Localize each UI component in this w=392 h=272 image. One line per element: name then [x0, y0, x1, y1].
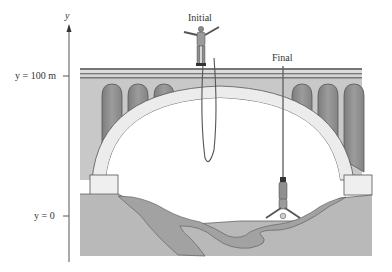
ground	[80, 194, 372, 256]
axis-y-label: y	[65, 10, 69, 21]
final-label: Final	[272, 52, 293, 63]
diagram-canvas	[0, 0, 392, 272]
bridge	[80, 68, 372, 195]
y-100m-label: y = 100 m	[15, 70, 56, 81]
y-axis	[63, 24, 72, 262]
y-0-label: y = 0	[34, 210, 55, 221]
initial-label: Initial	[188, 12, 212, 23]
